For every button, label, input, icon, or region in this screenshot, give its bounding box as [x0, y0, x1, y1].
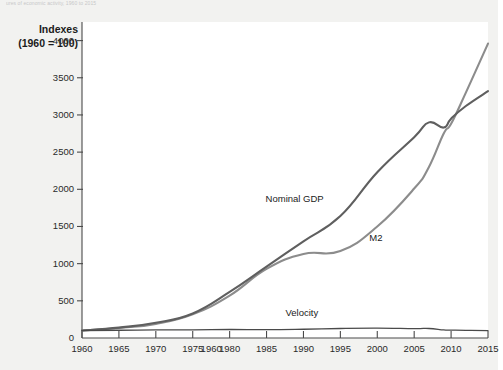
- annotation-nominal-gdp: Nominal GDP: [266, 193, 324, 204]
- x-axis-tick-label: 1995: [320, 344, 360, 354]
- y-axis-tick-label: 2500: [28, 147, 74, 157]
- y-axis-tick-label: 1000: [28, 259, 74, 269]
- y-axis-tick-label: 4000: [28, 36, 74, 46]
- x-axis-tick-label: 2000: [357, 344, 397, 354]
- annotation-velocity: Velocity: [285, 307, 318, 318]
- x-axis-tick-label: 1970: [136, 344, 176, 354]
- x-axis-tick-label: 2005: [394, 344, 434, 354]
- annotation-m2: M2: [369, 232, 382, 243]
- y-axis-tick-label: 0: [28, 333, 74, 343]
- y-axis-tick-label: 2000: [28, 184, 74, 194]
- x-axis-tick-label: 1965: [99, 344, 139, 354]
- x-axis-tick-label: 1980: [210, 344, 250, 354]
- y-axis-tick-label: 1500: [28, 221, 74, 231]
- x-axis-tick-label: 1985: [247, 344, 287, 354]
- x-axis-tick-label: 2015: [468, 344, 503, 354]
- y-axis-tick-label: 3500: [28, 73, 74, 83]
- plot-background: [82, 22, 488, 338]
- x-axis-tick-label: 1990: [283, 344, 323, 354]
- x-axis-tick-label: 1960: [62, 344, 102, 354]
- x-axis-tick-label: 2010: [431, 344, 471, 354]
- y-axis-tick-label: 3000: [28, 110, 74, 120]
- y-axis-tick-label: 500: [28, 296, 74, 306]
